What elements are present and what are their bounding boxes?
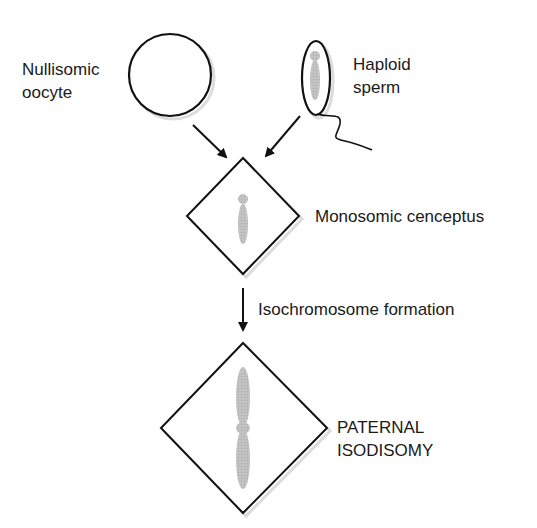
conceptus-label: Monosomic cenceptus <box>315 205 484 228</box>
arrow-oocyte-to-conceptus <box>193 125 226 157</box>
oocyte-label: Nullisomic oocyte <box>22 58 99 104</box>
sperm-label-line2: sperm <box>353 76 411 99</box>
sperm-label-line1: Haploid <box>353 53 411 76</box>
result-label: PATERNAL ISODISOMY <box>337 416 433 462</box>
result-label-line2: ISODISOMY <box>337 439 433 462</box>
isodisomy-diamond <box>161 343 330 516</box>
oocyte-circle <box>129 34 214 119</box>
conceptus-diamond <box>187 158 302 277</box>
result-label-line1: PATERNAL <box>337 416 433 439</box>
sperm-label: Haploid sperm <box>353 53 411 99</box>
arrow-sperm-to-conceptus <box>266 116 300 156</box>
oocyte-label-line2: oocyte <box>22 81 99 104</box>
oocyte-label-line1: Nullisomic <box>22 58 99 81</box>
process-label: Isochromosome formation <box>258 298 455 321</box>
